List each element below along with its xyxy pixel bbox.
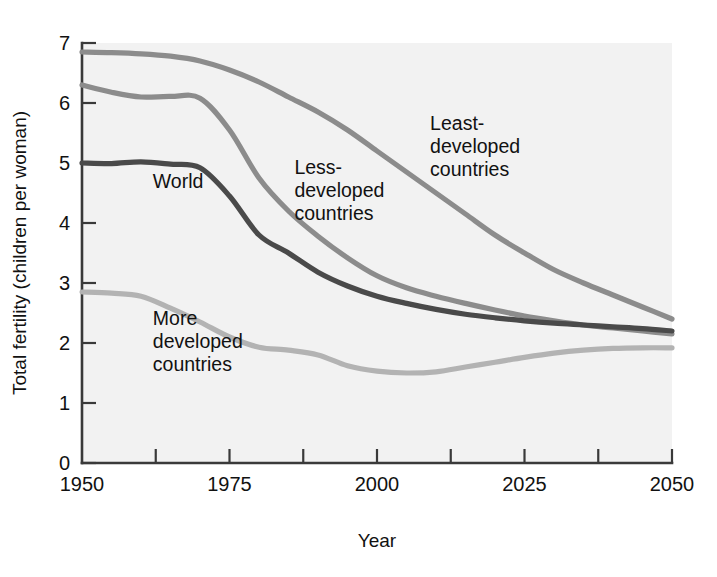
y-tick-label: 2 — [59, 332, 70, 354]
series-label-world: World — [153, 170, 204, 192]
series-label-line: countries — [430, 158, 509, 180]
y-tick-label: 4 — [59, 212, 70, 234]
series-label-line: World — [153, 170, 204, 192]
series-label-line: developed — [430, 135, 520, 157]
y-tick-label: 5 — [59, 152, 70, 174]
y-tick-label: 1 — [59, 392, 70, 414]
series-label-line: countries — [294, 202, 373, 224]
x-tick-label: 1950 — [60, 473, 105, 495]
y-tick-label: 0 — [59, 452, 70, 474]
fertility-line-chart: Least-developedcountriesLess-developedco… — [0, 0, 717, 577]
series-label-line: Less- — [294, 156, 342, 178]
y-axis-title: Total fertility (children per woman) — [9, 111, 30, 395]
series-label-line: Least- — [430, 112, 484, 134]
y-tick-label: 6 — [59, 92, 70, 114]
series-label-line: countries — [153, 353, 232, 375]
series-label-line: More — [153, 307, 197, 329]
x-tick-label: 2000 — [355, 473, 400, 495]
chart-canvas: Least-developedcountriesLess-developedco… — [0, 0, 717, 577]
series-label-line: developed — [153, 330, 243, 352]
x-axis-title: Year — [358, 530, 397, 551]
x-tick-label: 2050 — [650, 473, 695, 495]
y-tick-label: 7 — [59, 32, 70, 54]
y-tick-label: 3 — [59, 272, 70, 294]
x-tick-label: 1975 — [207, 473, 252, 495]
series-label-line: developed — [294, 179, 384, 201]
plot-area-background — [82, 43, 672, 463]
x-tick-label: 2025 — [502, 473, 547, 495]
